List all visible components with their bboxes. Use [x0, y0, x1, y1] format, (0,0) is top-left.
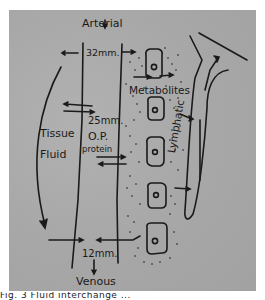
- label-fluid: Fluid: [40, 149, 66, 160]
- caption-text: Fig. 3 Fluid interchange ...: [0, 292, 265, 300]
- label-oncotic-pressure: 25mm.: [88, 116, 123, 126]
- capillary-right-wall: [117, 44, 122, 263]
- capillary-left-wall: [72, 43, 83, 268]
- label-metabolites: Metabolites: [129, 85, 190, 96]
- label-venous-pressure: 12mm.: [82, 249, 117, 259]
- label-protein: protein: [82, 145, 112, 154]
- label-op: O.P.: [88, 131, 108, 142]
- label-venous: Venous: [76, 276, 116, 287]
- cell-4: [148, 183, 166, 208]
- label-arterial-pressure: 32mm.: [86, 48, 120, 58]
- lymphatic-vessel: [185, 36, 228, 219]
- tissue-fluid-flow-arrow: [37, 67, 61, 225]
- figure-caption: Fig. 3 Fluid interchange ...: [0, 292, 265, 300]
- label-tissue: Tissue: [40, 128, 75, 139]
- cell-3: [147, 137, 164, 166]
- cell-1: [146, 49, 162, 78]
- metabolite-dots: [125, 47, 184, 265]
- label-arterial: Arterial: [82, 18, 123, 29]
